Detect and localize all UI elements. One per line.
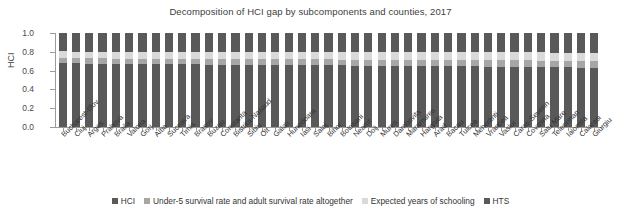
- bar-segment: [59, 33, 67, 51]
- bar-segment: [152, 33, 160, 52]
- legend-item[interactable]: HCI: [112, 196, 135, 206]
- bar-segment: [205, 52, 213, 59]
- bar-segment: [205, 33, 213, 52]
- bar-segment: [138, 33, 146, 52]
- y-tick-label: 0.2: [22, 104, 34, 112]
- bar-stack: [457, 33, 465, 127]
- bar-segment: [218, 33, 226, 52]
- bar-segment: [178, 52, 186, 59]
- bar-stack: [285, 33, 293, 127]
- bar-segment: [404, 33, 412, 52]
- bar-segment: [537, 52, 545, 60]
- bar-stack: [125, 33, 133, 127]
- bar-segment: [112, 33, 120, 52]
- bar-segment: [311, 33, 319, 52]
- bar-segment: [590, 33, 598, 53]
- bar-segment: [285, 65, 293, 127]
- bar-segment: [98, 52, 106, 59]
- bar-stack: [152, 33, 160, 127]
- bar-segment: [510, 33, 518, 52]
- bar-stack: [205, 33, 213, 127]
- bar-segment: [417, 33, 425, 52]
- legend-item[interactable]: HTS: [484, 196, 510, 206]
- bar-segment: [444, 33, 452, 52]
- bar-segment: [404, 52, 412, 60]
- bar-stack: [165, 33, 173, 127]
- bar-segment: [72, 33, 80, 52]
- bar-segment: [338, 65, 346, 127]
- bar-stack: [444, 33, 452, 127]
- bar-segment: [191, 52, 199, 59]
- bar-segment: [191, 33, 199, 52]
- legend-item[interactable]: Expected years of schooling: [362, 196, 475, 206]
- bar-stack: [324, 33, 332, 127]
- bar-segment: [378, 52, 386, 60]
- bar-stack: [510, 33, 518, 127]
- y-tick-label: 0.0: [22, 123, 34, 131]
- bar-segment: [258, 65, 266, 127]
- bar-segment: [138, 52, 146, 59]
- bar-segment: [85, 52, 93, 59]
- bar-segment: [311, 52, 319, 59]
- bar-segment: [112, 52, 120, 59]
- bar-segment: [258, 33, 266, 52]
- legend-label: HTS: [493, 196, 510, 206]
- bar-segment: [524, 33, 532, 52]
- y-tick-label: 0.6: [22, 67, 34, 75]
- bar-segment: [218, 52, 226, 59]
- bar-segment: [590, 61, 598, 68]
- legend-item[interactable]: Under-5 survival rate and adult survival…: [144, 196, 353, 206]
- legend-swatch-icon: [112, 198, 118, 204]
- bar-segment: [444, 66, 452, 127]
- y-tick-label: 0.4: [22, 85, 34, 93]
- bar-segment: [152, 52, 160, 59]
- bar-segment: [484, 33, 492, 52]
- bar-segment: [98, 64, 106, 127]
- bar-segment: [165, 52, 173, 59]
- bar-segment: [165, 64, 173, 127]
- bar-segment: [590, 53, 598, 61]
- bar-segment: [125, 52, 133, 59]
- legend-label: Expected years of schooling: [371, 196, 475, 206]
- x-tick-label: Olt: [259, 126, 271, 138]
- bar-segment: [271, 65, 279, 127]
- bar-stack: [191, 33, 199, 127]
- bar-segment: [537, 33, 545, 52]
- y-tick-label: 1.0: [22, 29, 34, 37]
- bar-segment: [285, 52, 293, 59]
- bar-segment: [431, 52, 439, 60]
- bar-stack: [471, 33, 479, 127]
- bar-segment: [98, 33, 106, 52]
- bar-segment: [417, 52, 425, 60]
- bar-segment: [577, 53, 585, 61]
- bar-segment: [431, 33, 439, 52]
- bar-stack: [271, 33, 279, 127]
- bar-segment: [577, 33, 585, 53]
- bar-segment: [245, 33, 253, 52]
- legend-label: Under-5 survival rate and adult survival…: [153, 196, 353, 206]
- bar-segment: [378, 66, 386, 127]
- bar-segment: [351, 52, 359, 59]
- y-axis-ticks: 0.00.20.40.60.81.0: [0, 0, 56, 214]
- legend-swatch-icon: [144, 198, 150, 204]
- bar-stack: [218, 33, 226, 127]
- bar-segment: [298, 33, 306, 52]
- bar-segment: [364, 33, 372, 52]
- bar-segment: [338, 33, 346, 52]
- bar-segment: [258, 52, 266, 59]
- bar-segment: [510, 52, 518, 60]
- bar-segment: [231, 33, 239, 52]
- bar-segment: [245, 52, 253, 59]
- bar-segment: [391, 52, 399, 60]
- bar-segment: [364, 52, 372, 60]
- bar-segment: [125, 33, 133, 52]
- bar-segment: [298, 52, 306, 59]
- bar-segment: [524, 52, 532, 60]
- bar-stack: [338, 33, 346, 127]
- bar-segment: [85, 33, 93, 52]
- bar-segment: [497, 52, 505, 60]
- bar-segment: [125, 64, 133, 127]
- bar-segment: [324, 65, 332, 127]
- bar-stack: [378, 33, 386, 127]
- bar-segment: [59, 51, 67, 58]
